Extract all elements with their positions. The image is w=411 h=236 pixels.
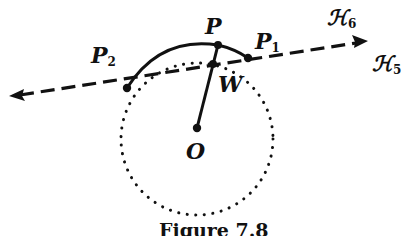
label-h6-text: ℋ <box>327 5 348 30</box>
label-h5: ℋ5 <box>372 53 401 76</box>
label-p1-sub: 1 <box>272 41 280 55</box>
label-o: O <box>186 140 205 162</box>
label-p2-sub: 2 <box>108 55 116 69</box>
label-h5-sub: 5 <box>393 63 401 77</box>
segment-op <box>197 45 218 128</box>
label-p2-text: P <box>91 42 108 68</box>
figure-7-8: P2 P P1 W O ℋ6 ℋ5 Figure 7.8 <box>0 0 411 236</box>
label-p1: P1 <box>255 30 280 54</box>
label-h6-sub: 6 <box>348 17 356 31</box>
label-p-text: P <box>205 13 222 39</box>
dashed-line-h5 <box>20 43 356 95</box>
label-p1-text: P <box>255 28 272 54</box>
point-o <box>193 124 201 132</box>
label-h6: ℋ6 <box>327 7 356 30</box>
right-arrowhead-icon <box>352 35 368 48</box>
label-o-text: O <box>186 138 205 164</box>
label-w: W <box>218 73 243 95</box>
label-p: P <box>205 15 222 37</box>
label-p2: P2 <box>91 44 116 68</box>
label-w-text: W <box>218 71 243 97</box>
point-p1 <box>244 54 252 62</box>
label-h5-text: ℋ <box>372 51 393 76</box>
figure-caption: Figure 7.8 <box>159 221 269 236</box>
point-w <box>209 60 217 68</box>
point-p2 <box>123 84 131 92</box>
point-p <box>214 41 222 49</box>
